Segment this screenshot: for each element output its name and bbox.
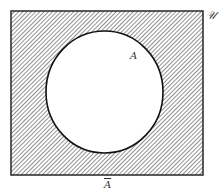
set-a-label: A	[130, 51, 137, 61]
set-a-circle	[46, 31, 163, 153]
universe-label: 𝒰	[206, 10, 216, 21]
venn-diagram	[0, 0, 224, 196]
complement-label: A	[104, 180, 111, 190]
